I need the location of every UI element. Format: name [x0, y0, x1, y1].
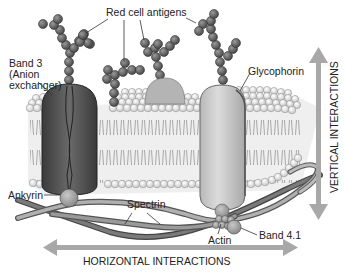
diagram-canvas: Red cell antigens Band 3 (Anion exchange… — [0, 0, 345, 274]
ankyrin-sphere — [60, 189, 78, 207]
label-vertical-interactions: VERTICAL INTERACTIONS — [328, 61, 340, 193]
band3-protein — [42, 84, 97, 195]
label-actin: Actin — [208, 234, 232, 246]
label-spectrin: Spectrin — [127, 198, 166, 210]
label-ankyrin: Ankyrin — [8, 189, 43, 201]
label-band3-line3: exchanger) — [9, 79, 62, 91]
horizontal-arrow — [43, 239, 298, 256]
label-red-cell-antigens: Red cell antigens — [106, 6, 187, 18]
band41-sphere — [227, 220, 241, 234]
glycophorin-protein — [200, 85, 245, 210]
label-glycophorin: Glycophorin — [248, 65, 304, 77]
peripheral-protein — [145, 78, 185, 104]
label-horizontal-interactions: HORIZONTAL INTERACTIONS — [83, 255, 231, 267]
label-band41: Band 4.1 — [259, 229, 301, 241]
